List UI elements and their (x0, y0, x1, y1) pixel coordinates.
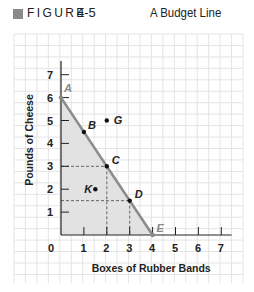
point-b-label: B (88, 119, 96, 131)
y-tick-label: 2 (47, 183, 53, 195)
budget-line-chart: 123456701234567ABCDEGKBoxes of Rubber Ba… (0, 0, 254, 292)
x-tick-label: 7 (218, 242, 224, 254)
point-e-marker (150, 233, 154, 237)
point-c-label: C (112, 154, 121, 166)
x-tick-label: 4 (149, 242, 156, 254)
y-tick-label: 3 (47, 160, 53, 172)
point-k-label: K (84, 183, 93, 195)
y-tick-label: 1 (47, 206, 53, 218)
x-tick-label: 3 (126, 242, 132, 254)
y-tick-label: 4 (47, 137, 54, 149)
point-b-marker (82, 130, 86, 134)
point-d-marker (128, 198, 132, 202)
x-tick-label: 2 (103, 242, 109, 254)
point-g-label: G (114, 114, 123, 126)
point-a-label: A (63, 82, 72, 94)
y-tick-label: 7 (47, 69, 53, 81)
y-axis-label: Pounds of Cheese (23, 94, 35, 186)
origin-label: 0 (48, 242, 54, 254)
y-tick-label: 6 (47, 92, 53, 104)
point-k-marker (93, 187, 97, 191)
point-g-marker (105, 118, 109, 122)
x-tick-label: 1 (80, 242, 86, 254)
point-a-marker (59, 95, 63, 99)
point-e-label: E (157, 222, 165, 234)
point-c-marker (105, 164, 109, 168)
point-d-label: D (135, 188, 143, 200)
x-tick-label: 5 (172, 242, 178, 254)
x-tick-label: 6 (195, 242, 201, 254)
y-tick-label: 5 (47, 115, 53, 127)
x-axis-label: Boxes of Rubber Bands (92, 262, 211, 274)
